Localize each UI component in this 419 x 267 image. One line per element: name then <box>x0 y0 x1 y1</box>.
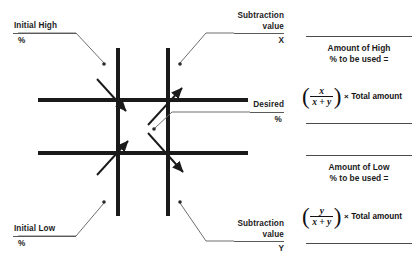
callout-initial-high-rule <box>13 33 76 34</box>
leader-dot-initial-high <box>102 62 106 66</box>
callout-subtraction-y-rule <box>234 241 284 242</box>
callout-initial-low-line1: Initial Low <box>14 224 55 233</box>
arrow-bottom-left-up-right <box>97 141 128 175</box>
panel-high-heading-line1: Amount of High <box>328 43 391 53</box>
arrow-top-left-down-right <box>97 79 126 111</box>
callout-initial-high-line2: % <box>18 36 25 45</box>
formula-high-numerator: x <box>316 86 327 96</box>
panel-divider-middle <box>306 123 412 124</box>
leader-dot-subtraction-y <box>178 200 182 204</box>
panel-high-formula: ( x x + y ) × Total amount <box>302 86 402 107</box>
formula-low-times-symbol: × <box>344 212 349 221</box>
leader-dot-subtraction-x <box>178 62 182 66</box>
arrow-top-right-up-right <box>148 88 182 125</box>
callout-initial-low: Initial Low <box>14 224 55 235</box>
panel-divider-top <box>306 36 412 37</box>
formula-low-numerator: y <box>317 206 327 216</box>
formula-high-denominator: x + y <box>310 97 333 107</box>
callout-initial-low-line2: % <box>18 239 25 248</box>
callout-initial-high-line1: Initial High <box>14 21 57 30</box>
callout-subtraction-x-line2: value <box>263 22 284 31</box>
callout-desired-line1: Desired <box>253 100 284 109</box>
callout-subtraction-y-line2: value <box>263 230 284 239</box>
callout-subtraction-x-line3: X <box>278 36 284 45</box>
callout-desired-line2: % <box>275 115 282 124</box>
formula-low-tail: Total amount <box>351 212 402 221</box>
leader-dot-initial-low <box>102 200 106 204</box>
panel-divider-low-top <box>306 155 412 156</box>
callout-subtraction-x-rule <box>234 33 284 34</box>
diagram-root: Initial High % Subtraction value X Desir… <box>0 0 419 267</box>
formula-high-fraction: x x + y <box>310 86 333 107</box>
formula-high-tail: Total amount <box>351 92 402 101</box>
panel-high-heading: Amount of High % to be used = <box>306 43 412 65</box>
callout-initial-low-percent: % <box>18 239 25 250</box>
panel-low-heading: Amount of Low % to be used = <box>306 162 412 184</box>
callout-initial-high-percent: % <box>18 36 25 47</box>
callout-subtraction-x: Subtraction value <box>164 11 284 32</box>
callout-desired: Desired <box>184 100 284 111</box>
callout-desired-rule <box>250 112 284 113</box>
panel-low-heading-line2: % to be used = <box>330 173 389 183</box>
formula-high-times-symbol: × <box>344 92 349 101</box>
callout-subtraction-y-line1: Subtraction <box>237 219 284 228</box>
formula-high-close-paren: ) <box>334 87 342 107</box>
callout-initial-high: Initial High <box>14 21 57 32</box>
callout-subtraction-x-line1: Subtraction <box>237 11 284 20</box>
formula-high-open-paren: ( <box>302 87 310 107</box>
callout-subtraction-y: Subtraction value <box>164 219 284 240</box>
formula-low-denominator: x + y <box>310 217 333 227</box>
panel-low-formula: ( y x + y ) × Total amount <box>302 206 402 227</box>
formula-low-close-paren: ) <box>334 207 342 227</box>
panel-low-heading-line1: Amount of Low <box>329 162 390 172</box>
callout-initial-low-rule <box>13 236 76 237</box>
leader-dot-desired <box>152 127 156 131</box>
formula-low-fraction: y x + y <box>310 206 333 227</box>
callout-subtraction-y-line3: Y <box>278 244 284 253</box>
leader-initial-high <box>18 33 104 63</box>
panel-divider-bottom <box>306 243 412 244</box>
panel-high-heading-line2: % to be used = <box>330 54 389 64</box>
callout-subtraction-x-symbol: X <box>184 36 284 47</box>
formula-low-open-paren: ( <box>302 207 310 227</box>
callout-subtraction-y-symbol: Y <box>184 244 284 255</box>
callout-desired-percent: % <box>184 115 282 126</box>
